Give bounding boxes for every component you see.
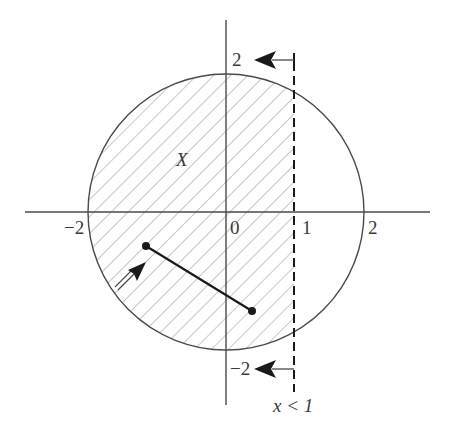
x-tick-2: 2 [368,217,378,238]
x-tick-1: 1 [302,217,312,238]
constraint-label: x < 1 [272,395,313,416]
segment-endpoint-b [248,307,256,315]
arrow-left-bottom-icon [254,360,294,378]
convex-set-diagram: −2 0 1 2 2 −2 X x < 1 [0,0,451,436]
x-tick-neg2: −2 [64,217,84,238]
y-tick-neg2: −2 [230,358,250,379]
region-label-x: X [175,149,189,170]
arrow-left-top-icon [254,51,294,69]
y-tick-2: 2 [232,49,242,70]
x-tick-0: 0 [230,217,240,238]
segment-endpoint-a [142,242,150,250]
